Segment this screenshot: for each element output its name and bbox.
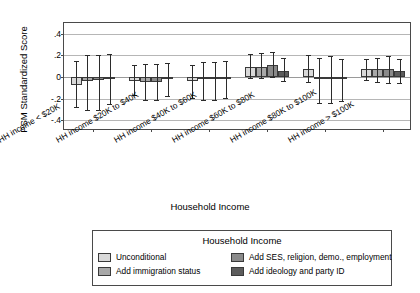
x-tick-mark: [151, 129, 152, 132]
error-bar-cap: [281, 81, 286, 82]
error-bar-cap: [143, 64, 148, 65]
error-bar-cap: [248, 54, 253, 55]
legend-swatch: [231, 253, 244, 262]
x-tick-mark: [209, 129, 210, 132]
chart-figure: PSM Standardized Score .4.20-.2-.4 House…: [0, 0, 420, 293]
error-bar-cap: [386, 56, 391, 57]
error-bar: [226, 61, 227, 98]
bar-group: [354, 23, 412, 129]
legend-label: Add SES, religion, demo., employment: [249, 252, 392, 262]
error-bar-cap: [212, 62, 217, 63]
error-bar: [157, 64, 158, 100]
error-bar: [203, 62, 204, 100]
error-bar-cap: [364, 80, 369, 81]
y-tick-label: .4: [54, 29, 61, 39]
error-bar: [76, 61, 77, 107]
error-bar-cap: [306, 55, 311, 56]
y-tick-label: 0: [56, 72, 61, 82]
x-axis-title: Household Income: [0, 201, 420, 212]
error-bar-cap: [223, 98, 228, 99]
error-bar-cap: [201, 62, 206, 63]
error-bar-cap: [339, 59, 344, 60]
error-bar-cap: [165, 96, 170, 97]
chart-legend: Household Income UnconditionalAdd immigr…: [92, 230, 392, 286]
error-bar-cap: [375, 58, 380, 59]
error-bar-cap: [107, 54, 112, 55]
legend-title: Household Income: [93, 235, 391, 246]
plot-area: .4.20-.2-.4: [63, 22, 411, 130]
legend-swatch: [98, 253, 111, 262]
error-bar-cap: [165, 63, 170, 64]
error-bar: [99, 55, 100, 110]
x-tick-mark: [93, 129, 94, 132]
error-bar: [400, 59, 401, 84]
legend-item[interactable]: Add ideology and party ID: [231, 266, 344, 276]
legend-item[interactable]: Add SES, religion, demo., employment: [231, 252, 392, 262]
legend-swatch: [231, 267, 244, 276]
error-bar-cap: [154, 100, 159, 101]
error-bar-cap: [259, 53, 264, 54]
legend-swatch: [98, 267, 111, 276]
error-bar-cap: [74, 107, 79, 108]
error-bar-cap: [223, 61, 228, 62]
error-bar-cap: [85, 110, 90, 111]
x-tick-mark: [383, 129, 384, 132]
error-bar: [215, 62, 216, 100]
error-bar-cap: [270, 52, 275, 53]
error-bar-cap: [328, 103, 333, 104]
error-bar-cap: [143, 100, 148, 101]
error-bar-cap: [386, 83, 391, 84]
error-bar: [261, 53, 262, 78]
error-bar: [342, 59, 343, 101]
legend-item[interactable]: Unconditional: [98, 252, 166, 262]
error-bar-cap: [190, 65, 195, 66]
error-bar: [308, 55, 309, 82]
error-bar-cap: [270, 77, 275, 78]
error-bar: [250, 54, 251, 78]
legend-label: Add immigration status: [116, 266, 200, 276]
error-bar: [168, 63, 169, 96]
legend-label: Add ideology and party ID: [249, 266, 344, 276]
error-bar-cap: [212, 100, 217, 101]
error-bar-cap: [364, 59, 369, 60]
error-bar-cap: [328, 56, 333, 57]
error-bar-cap: [132, 65, 137, 66]
error-bar: [331, 56, 332, 102]
error-bar-cap: [317, 58, 322, 59]
error-bar: [110, 54, 111, 104]
legend-label: Unconditional: [116, 252, 166, 262]
error-bar-cap: [85, 55, 90, 56]
error-bar-cap: [154, 64, 159, 65]
legend-item[interactable]: Add immigration status: [98, 266, 200, 276]
error-bar-cap: [74, 61, 79, 62]
x-tick-mark: [325, 129, 326, 132]
error-bar: [389, 56, 390, 83]
error-bar-cap: [96, 55, 101, 56]
error-bar: [319, 58, 320, 103]
error-bar-cap: [281, 58, 286, 59]
error-bar-cap: [306, 82, 311, 83]
y-tick-label: -.4: [51, 115, 61, 125]
y-tick-label: .2: [54, 50, 61, 60]
error-bar-cap: [248, 78, 253, 79]
error-bar: [145, 64, 146, 100]
error-bar: [366, 59, 367, 81]
error-bar-cap: [397, 83, 402, 84]
error-bar: [87, 55, 88, 110]
error-bar-cap: [317, 103, 322, 104]
error-bar-cap: [259, 78, 264, 79]
error-bar: [284, 58, 285, 82]
error-bar: [377, 58, 378, 83]
error-bar: [273, 52, 274, 77]
error-bar-cap: [375, 82, 380, 83]
error-bar-cap: [201, 100, 206, 101]
x-tick-mark: [267, 129, 268, 132]
error-bar-cap: [397, 59, 402, 60]
